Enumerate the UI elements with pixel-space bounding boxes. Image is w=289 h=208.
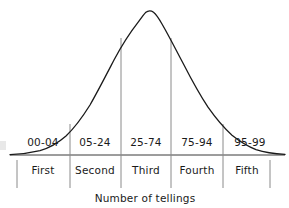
percentile-range-label-fourth: 75-94	[181, 137, 213, 148]
percentile-range-label-fifth: 95-99	[234, 137, 266, 148]
scan-artifact	[0, 141, 6, 150]
percentile-range-label-third: 25-74	[130, 137, 162, 148]
percentile-range-label-first: 00-04	[27, 137, 59, 148]
distribution-plot	[0, 0, 289, 208]
quintile-label-third: Third	[132, 165, 160, 176]
bell-curve-figure: 00-04 05-24 25-74 75-94 95-99 First Seco…	[0, 0, 289, 208]
x-axis-title: Number of tellings	[95, 192, 196, 204]
normal-distribution-curve	[10, 11, 285, 155]
quintile-label-first: First	[31, 165, 54, 176]
quintile-label-fifth: Fifth	[235, 165, 258, 176]
quintile-label-second: Second	[75, 165, 115, 176]
percentile-range-label-second: 05-24	[79, 137, 111, 148]
quintile-label-fourth: Fourth	[179, 165, 214, 176]
